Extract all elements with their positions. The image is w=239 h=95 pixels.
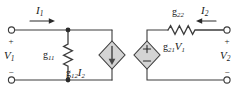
label-voltage-v2: V2: [220, 50, 230, 63]
resistor-g22: [168, 26, 224, 35]
label-dependent-current-source: g12I2: [66, 67, 85, 80]
current-arrow-i1-head: [49, 18, 55, 24]
label-current-i2: I2: [201, 5, 208, 18]
terminal-left-bottom: [8, 77, 14, 83]
label-conductance-g22: g22: [172, 7, 184, 19]
label-current-i1: I1: [36, 5, 43, 18]
terminal-right-top: [224, 27, 230, 33]
circuit-diagram: I1 I2 + V1 − + V2 − g11 g12I2 g21V1 g22: [0, 0, 239, 95]
wire-right-top: [147, 30, 168, 41]
terminal-right-bottom: [224, 77, 230, 83]
terminal-left-top: [8, 27, 14, 33]
label-conductance-g11: g11: [43, 50, 54, 62]
wire-right-bottom: [147, 69, 224, 80]
current-arrow-i2-head: [196, 18, 202, 24]
polarity-plus-right: +: [225, 37, 230, 46]
polarity-minus-right: −: [225, 68, 230, 77]
polarity-minus-left: −: [9, 68, 14, 77]
label-voltage-v1: V1: [4, 50, 14, 63]
polarity-plus-left: +: [9, 37, 14, 46]
label-dependent-voltage-source: g21V1: [163, 41, 185, 54]
